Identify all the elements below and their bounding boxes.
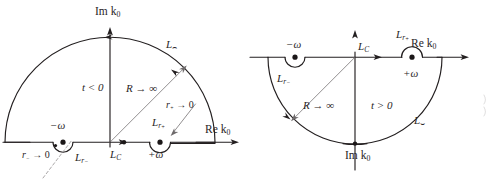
right-imaginary-axis-label: Im k0: [345, 150, 370, 163]
left-large-arc-arrowhead-upper-right: [171, 70, 180, 77]
left-rminus-marker: [54, 144, 57, 147]
left-contour-label: LC: [110, 149, 121, 162]
left-radius-minus-limit-label: r− → 0: [22, 150, 50, 162]
right-pole-minus-omega-label: −ω: [286, 39, 301, 50]
left-pole-minus-omega: [60, 140, 65, 145]
right-imaginary-axis-arrowhead: [352, 30, 358, 38]
left-radius-plus-limit-label: r+ → 0: [166, 100, 194, 112]
left-time-condition-label: t < 0: [82, 82, 103, 93]
page-artifact: [484, 95, 486, 104]
left-rplus-pointer-arrowhead: [171, 128, 179, 136]
contour-figure: Im k0 Re k0 L⌢ t < 0 R → ∞ r+ → 0 r− → 0…: [0, 0, 496, 181]
right-large-arc-label: L⌣: [414, 115, 425, 128]
left-small-arc-minus-label: Lr−: [75, 152, 88, 165]
right-pole-plus-omega-label: +ω: [403, 68, 418, 79]
right-pole-plus-omega: [409, 55, 414, 60]
right-small-arc-minus-label: Lr−: [277, 73, 290, 86]
left-large-arc-label: L⌢: [166, 39, 177, 52]
page-artifact-2: [484, 107, 486, 116]
right-real-axis-label: Re k0: [411, 38, 436, 51]
left-pole-plus-omega-label: +ω: [148, 149, 163, 160]
left-contour-marker: [122, 140, 126, 144]
right-pole-minus-omega: [292, 55, 297, 60]
left-real-axis-label: Re k0: [205, 124, 230, 137]
left-pole-minus-omega-label: −ω: [50, 120, 65, 131]
left-small-arc-plus-label: Lr+: [152, 117, 165, 130]
right-radius-label: R → ∞: [303, 100, 334, 111]
right-time-condition-label: t > 0: [371, 100, 392, 111]
left-pole-plus-omega: [157, 140, 162, 145]
left-radius-label: R → ∞: [126, 83, 157, 94]
right-contour-label: LC: [358, 41, 369, 54]
left-imaginary-axis-label: Im k0: [95, 6, 120, 19]
right-small-arc-plus-label: Lr+: [396, 29, 409, 42]
right-arc-bottom-marker: [353, 141, 357, 145]
